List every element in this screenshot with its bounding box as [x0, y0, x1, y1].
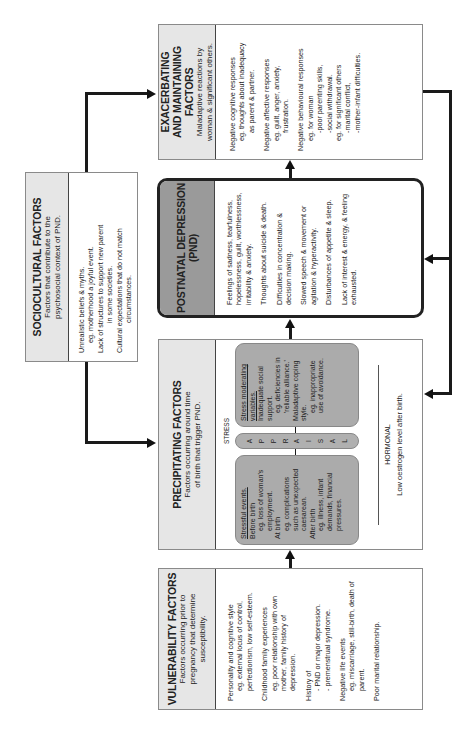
sociocultural-factors-box: SOCIOCULTURAL FACTORS Factors that contr…: [25, 172, 138, 362]
pnd-model-diagram: VULNERABILITY FACTORS Factors occurring …: [0, 0, 464, 750]
precipitating-subtitle: Factors occurring around time of birth t…: [183, 340, 203, 549]
connector-line: [289, 558, 292, 568]
exacerbating-title: EXACERBATING AND MAINTAINING FACTORS: [159, 25, 195, 159]
hormonal-label: HORMONAL: [384, 340, 391, 549]
pnd-symptom: Thoughts about suicide & death.: [259, 191, 268, 305]
connector-line: [295, 449, 296, 455]
feedback-line: [432, 392, 452, 395]
connector-line: [289, 168, 292, 178]
exacerbating-item: Negative cognitive responseseg. thoughts…: [228, 33, 256, 151]
connector-line: [85, 92, 88, 172]
arrow-right-icon: [285, 160, 295, 169]
sociocultural-subtitle: Factors that contribute to the psychosoc…: [43, 173, 63, 361]
pnd-symptom: Difficulties in concentration & decision…: [275, 191, 294, 305]
arrow-up-icon: [424, 254, 433, 264]
exacerbating-header: EXACERBATING AND MAINTAINING FACTORS Mal…: [159, 25, 216, 159]
sociocultural-title: SOCIOCULTURAL FACTORS: [31, 173, 43, 361]
exacerbating-item: Negative affective responseseg. guilt, a…: [262, 33, 290, 151]
feedback-line: [423, 90, 451, 93]
vulnerability-item: Personality and cognitive styleeg. exter…: [226, 577, 254, 701]
vulnerability-item: Negative life eventseg. miscarriage, sti…: [338, 577, 366, 701]
precipitating-title: PRECIPITATING FACTORS: [171, 340, 183, 549]
arrow-down-icon: [147, 438, 156, 448]
pnd-symptom: Feelings of sadness, tearfulness, hopele…: [225, 191, 253, 305]
feedback-line: [449, 90, 452, 395]
connector-line: [295, 427, 296, 433]
hormonal-divider: [378, 365, 379, 525]
connector-line: [85, 441, 149, 444]
connector-line: [85, 362, 88, 444]
feedback-line: [432, 257, 452, 260]
pnd-symptom: Disturbances of appetite & sleep.: [324, 191, 333, 305]
vulnerability-item: Poor marital relationship.: [372, 577, 381, 701]
exacerbating-factors-box: EXACERBATING AND MAINTAINING FACTORS Mal…: [158, 24, 423, 160]
sociocultural-header: SOCIOCULTURAL FACTORS Factors that contr…: [26, 173, 69, 361]
pnd-header: POSTNATAL DEPRESSION (PND): [160, 181, 215, 315]
stress-moderating-box: Stress moderating variables. Inadequate …: [235, 343, 359, 427]
pnd-symptom: Lack of interest & energy, & feeling exh…: [340, 191, 359, 305]
arrow-right-icon: [285, 550, 295, 559]
stress-label: STRESS: [223, 418, 230, 444]
pnd-title: POSTNATAL DEPRESSION: [175, 181, 187, 315]
pnd-symptom: Slowed speech & movement or agitation & …: [299, 191, 318, 305]
vulnerability-item: History of- PND or major depression.- pr…: [304, 577, 332, 701]
arrow-right-icon: [285, 319, 295, 328]
exacerbating-subtitle: Maladaptive reactions by woman & signifi…: [195, 25, 215, 159]
vulnerability-subtitle: Factors occurring prior to pregnancy tha…: [178, 569, 208, 709]
vulnerability-item: Childhood family experienceseg. poor rel…: [260, 577, 298, 701]
hormonal-text: Low oestrogen level after birth.: [395, 340, 404, 549]
postnatal-depression-box: POSTNATAL DEPRESSION (PND) Feelings of s…: [157, 178, 424, 318]
precipitating-header: PRECIPITATING FACTORS Factors occurring …: [159, 340, 216, 549]
appraisal-pill: APPRAISAL: [235, 433, 359, 449]
vulnerability-title: VULNERABILITY FACTORS: [166, 569, 178, 709]
connector-line: [85, 92, 149, 95]
vulnerability-header: VULNERABILITY FACTORS Factors occurring …: [159, 569, 216, 709]
arrow-up-icon: [424, 389, 433, 399]
arrow-down-icon: [147, 89, 156, 99]
stressful-events-box: Stressful events. Before birth eg. loss …: [235, 455, 359, 545]
precipitating-factors-box: PRECIPITATING FACTORS Factors occurring …: [158, 339, 423, 550]
vulnerability-factors-box: VULNERABILITY FACTORS Factors occurring …: [158, 568, 423, 710]
connector-line: [289, 327, 292, 339]
exacerbating-item: Negative behavioural responseseg. for wo…: [296, 33, 362, 151]
pnd-abbr: (PND): [187, 181, 199, 315]
